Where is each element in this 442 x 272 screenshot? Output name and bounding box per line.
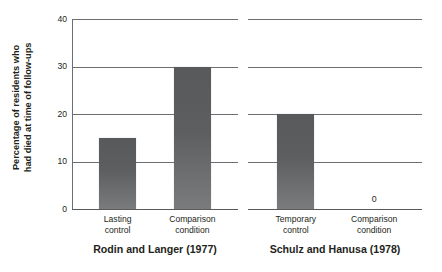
bar: [277, 114, 314, 209]
gridline: [72, 19, 238, 20]
y-axis-ticks: 010203040: [46, 0, 70, 215]
y-tick-label: 20: [57, 110, 67, 119]
category-label-line: Comparison: [169, 214, 215, 225]
axis-baseline: [72, 209, 238, 210]
gridline: [72, 162, 238, 163]
gridline: [72, 67, 238, 68]
axis-baseline: [248, 209, 422, 210]
y-tick-label: 0: [62, 205, 67, 214]
category-label-line: Comparison: [351, 214, 397, 225]
gridline: [72, 114, 238, 115]
bar-chart-figure: Percentage of residents who had died at …: [0, 0, 442, 272]
y-axis-label-line-2: had died at time of follow-ups: [23, 43, 35, 173]
category-label-line: Lasting: [104, 214, 132, 225]
gridline: [248, 67, 422, 68]
category-label-line: control: [104, 225, 132, 236]
category-labels-panel-1: TemporarycontrolComparisoncondition: [248, 214, 422, 240]
category-label: Comparisoncondition: [169, 214, 215, 235]
chart-panel-schulz-and-hanusa: 0: [248, 19, 422, 210]
panel-title-0: Rodin and Langer (1977): [93, 243, 217, 255]
gridline: [248, 19, 422, 20]
y-axis-label: Percentage of residents who had died at …: [0, 0, 46, 215]
category-label: Comparisoncondition: [351, 214, 397, 235]
gridline: [248, 114, 422, 115]
category-labels-panel-0: LastingcontrolComparisoncondition: [72, 214, 238, 240]
y-tick-label: 10: [57, 157, 67, 166]
bar-value-label: 0: [372, 194, 377, 204]
bar: [99, 138, 136, 209]
category-label-line: control: [276, 225, 317, 236]
category-label: Lastingcontrol: [104, 214, 132, 235]
gridline: [248, 162, 422, 163]
category-label-line: condition: [169, 225, 215, 236]
y-axis-label-line-1: Percentage of residents who: [11, 43, 23, 173]
category-label: Temporarycontrol: [276, 214, 317, 235]
category-label-line: condition: [351, 225, 397, 236]
category-label-line: Temporary: [276, 214, 317, 225]
panel-title-1: Schulz and Hanusa (1978): [270, 243, 401, 255]
bar: [174, 67, 211, 210]
y-tick-label: 40: [57, 15, 67, 24]
y-tick-label: 30: [57, 62, 67, 71]
chart-panel-rodin-and-langer: [72, 19, 238, 210]
